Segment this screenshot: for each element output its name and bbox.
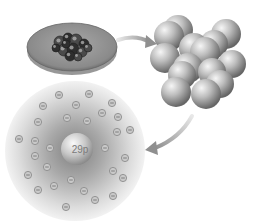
electron <box>91 196 98 203</box>
electron <box>80 187 87 194</box>
nugget-highlight <box>72 36 76 40</box>
nugget-highlight <box>56 38 60 42</box>
electron <box>98 109 105 116</box>
electron <box>50 182 57 189</box>
atom-lattice <box>150 15 246 109</box>
electron <box>63 114 70 121</box>
electron <box>126 126 133 133</box>
nugget <box>52 44 60 52</box>
lattice-atom <box>191 79 221 109</box>
copper-sample-dish <box>27 23 117 75</box>
electron <box>31 137 38 144</box>
electron <box>34 186 41 193</box>
electron <box>85 90 92 97</box>
nugget <box>84 44 92 52</box>
electron <box>15 135 22 142</box>
electron <box>72 101 79 108</box>
nugget-highlight <box>81 41 85 45</box>
electron <box>67 176 74 183</box>
electron <box>101 144 108 151</box>
nugget <box>62 40 70 48</box>
electron <box>108 99 115 106</box>
nucleus-label: 29p <box>72 144 89 155</box>
atom-model: 29p <box>5 81 145 221</box>
arrow-lattice-to-atom-head <box>145 141 158 155</box>
nugget <box>65 51 75 61</box>
diagram-svg: 29p <box>0 0 253 221</box>
nugget <box>74 53 82 61</box>
nugget-highlight <box>53 45 56 48</box>
electron <box>24 171 31 178</box>
nugget-highlight <box>85 45 88 48</box>
electron <box>43 163 50 170</box>
electron <box>46 144 53 151</box>
electron <box>109 167 116 174</box>
electron <box>62 203 69 210</box>
nugget-highlight <box>75 54 78 57</box>
lattice-atom <box>161 77 191 107</box>
electron <box>55 91 62 98</box>
nugget-highlight <box>63 41 66 44</box>
electron <box>114 113 121 120</box>
nugget-highlight <box>65 35 69 39</box>
electron <box>113 128 120 135</box>
electron <box>34 118 41 125</box>
electron <box>39 102 46 109</box>
electron <box>119 174 126 181</box>
arrow-sample-to-lattice <box>118 37 150 42</box>
arrow-lattice-to-atom <box>155 116 192 148</box>
electron <box>121 154 128 161</box>
diagram-canvas: 29p <box>0 0 253 221</box>
electron <box>31 152 38 159</box>
nugget-highlight <box>79 49 83 53</box>
nugget-highlight <box>67 53 71 57</box>
electron <box>109 192 116 199</box>
electron <box>83 117 90 124</box>
nugget-highlight <box>69 45 73 49</box>
